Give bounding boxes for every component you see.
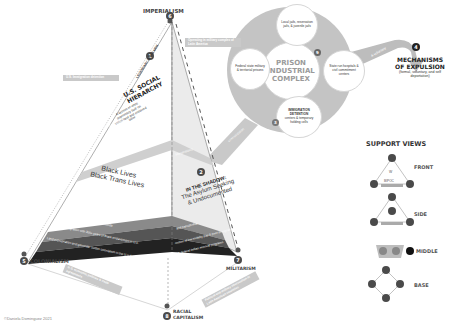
sv-side-top-node [388,193,396,201]
sv-front-w: W [389,170,392,174]
sv-middle-node-2 [392,247,400,255]
racial-capitalism-label-1: RACIAL [173,309,191,314]
sv-front-left-node [370,180,378,188]
sv-side-label: SIDE [414,211,427,217]
right-face-number: 2 [197,168,205,176]
sv-front-right-node [406,180,414,188]
pic-badge: 9 [314,49,321,56]
prison-industrial-complex-center: PRISON INDUSTRIAL COMPLEX [262,42,320,100]
banner-top-right: Operating in military complex of Latin A… [185,38,241,47]
mechanisms-of-expulsion: MECHANISMS OF EXPULSION (formal, volunta… [388,56,452,79]
expulsion-subtitle: (formal, voluntary, and self deportation… [388,70,452,79]
pic-title-1: PRISON [267,59,315,67]
colonialism-number: 5 [20,257,28,265]
immigration-detention-text: centers & temporary holding cells [281,117,317,125]
apex-label: IMPERIALISM [143,8,184,14]
federal-prisons-text: Federal state military & territorial pri… [235,65,265,73]
expulsion-title-2: OF EXPULSION [388,63,452,70]
militarism-label: MILITARISM [226,266,256,271]
sv-side-mid-node [388,207,396,215]
satellite-federal-prisons: Federal state military & territorial pri… [230,48,270,90]
expulsion-title-1: MECHANISMS [388,56,452,63]
sv-front-bipoc: BIPOC [384,179,394,183]
sv-middle-label: MIDDLE [416,248,438,254]
local-jails-text: Local jails, reservation jails, & juveni… [281,21,313,29]
sv-base-bottom-node [382,294,390,302]
sv-middle-node-3 [406,247,414,255]
militarism-number: 7 [234,256,242,264]
racial-capitalism-number: 8 [163,312,171,320]
sv-middle-node-1 [379,247,387,255]
sv-base-right-node [396,280,404,288]
satellite-immigration-detention: IMMIGRATION DETENTION centers & temporar… [276,96,322,138]
satellite-state-hospitals: State run hospitals & civil commitment c… [323,50,365,92]
state-hospitals-text: State run hospitals & civil commitment c… [328,65,360,76]
prison-complex-number: 3 [272,119,279,126]
racial-capitalism-label-2: CAPITALISM [173,315,203,320]
support-views-title: SUPPORT VIEWS [366,140,426,148]
expulsion-number: 4 [412,43,420,51]
apex-number: 6 [166,12,174,20]
sv-base-label: BASE [414,282,429,288]
pic-title-2: INDUSTRIAL [267,67,315,75]
pic-title-3: COMPLEX [267,75,315,83]
sv-front-label: FRONT [414,164,433,170]
sv-side-right-node [406,218,414,226]
sv-base-left-node [368,280,376,288]
sv-front-top-node [388,154,396,162]
sv-side-left-node [370,218,378,226]
banner-left-mid: U.S. Immigration detention [63,75,119,81]
satellite-local-jails: Local jails, reservation jails, & juveni… [276,4,318,46]
colonialism-label: COLONIALISM [30,258,69,264]
sv-base-top-node [382,266,390,274]
copyright: ©Daniela Dominguez 2021 [4,316,52,321]
